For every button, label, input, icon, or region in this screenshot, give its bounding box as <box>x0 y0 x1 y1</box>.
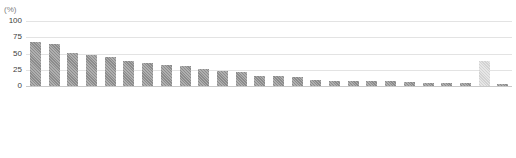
x-axis-tick-label: Norway <box>484 88 492 158</box>
bar-chart: (%) 1007550250 CyprusLuxembourgGermanySw… <box>0 0 516 158</box>
bar[interactable] <box>217 71 228 86</box>
bar[interactable] <box>254 76 265 86</box>
x-axis-tick-label: Denmark <box>110 88 118 158</box>
x-axis-label-slot: Spain <box>381 88 400 158</box>
x-axis-tick-label: Hungary <box>334 88 342 158</box>
bars-layer <box>26 21 512 86</box>
x-axis-tick-label: Croatia <box>502 88 510 158</box>
axis-baseline <box>26 86 512 87</box>
x-axis-tick-label: Italy <box>353 88 361 158</box>
x-axis-label-slot: Germany <box>63 88 82 158</box>
x-axis-tick-label: Latvia <box>315 88 323 158</box>
bar[interactable] <box>385 81 396 86</box>
x-axis-label-slot: Czech Republic <box>288 88 307 158</box>
x-axis-label-slot: Slovenia <box>119 88 138 158</box>
bar[interactable] <box>105 57 116 86</box>
x-axis-label-slot: Austria <box>232 88 251 158</box>
x-axis-label-slot: Malta <box>157 88 176 158</box>
x-axis-label-slot: Denmark <box>101 88 120 158</box>
x-axis-label-slot: Netherlands <box>194 88 213 158</box>
bar[interactable] <box>497 84 508 86</box>
x-axis-label-slot: Poland <box>362 88 381 158</box>
x-axis-tick-label: United Kingdom <box>185 88 193 158</box>
x-axis-tick-label: Romania <box>465 88 473 158</box>
x-axis-tick-label: Slovenia <box>128 88 136 158</box>
x-axis-tick-label: France <box>409 88 417 158</box>
x-axis-label-slot: Belgium <box>138 88 157 158</box>
bar[interactable] <box>329 81 340 86</box>
bar[interactable] <box>404 82 415 86</box>
x-axis-label-slot: Cyprus <box>26 88 45 158</box>
x-axis-tick-label: Cyprus <box>35 88 43 158</box>
y-axis-unit-label: (%) <box>4 5 16 14</box>
x-axis-tick-label: Germany <box>72 88 80 158</box>
bar[interactable] <box>180 66 191 86</box>
x-axis-tick-label: Greece <box>446 88 454 158</box>
bar[interactable] <box>142 63 153 86</box>
x-axis-tick-label: Spain <box>390 88 398 158</box>
x-axis-label-slot: United Kingdom <box>176 88 195 158</box>
x-axis-label-slot: France <box>400 88 419 158</box>
x-axis-label-slot: Italy <box>344 88 363 158</box>
bar[interactable] <box>366 81 377 86</box>
x-axis-label-slot: Sweden <box>82 88 101 158</box>
x-axis-label-slot: Romania <box>456 88 475 158</box>
bar[interactable] <box>479 61 490 86</box>
bar[interactable] <box>236 72 247 86</box>
x-axis-label-slot: Hungary <box>325 88 344 158</box>
x-axis-tick-label: Belgium <box>147 88 155 158</box>
bar[interactable] <box>441 83 452 86</box>
x-axis-tick-label: Estonia <box>259 88 267 158</box>
y-axis-tick-label: 25 <box>0 66 22 74</box>
x-axis-label-slot: Finland <box>269 88 288 158</box>
x-axis-tick-label: Portugal <box>428 88 436 158</box>
bar[interactable] <box>348 81 359 86</box>
y-axis-tick-label: 0 <box>0 82 22 90</box>
y-axis-tick-label: 50 <box>0 50 22 58</box>
bar[interactable] <box>460 83 471 86</box>
x-axis-label-slot: Estonia <box>250 88 269 158</box>
x-axis-label-slot: Croatia <box>493 88 512 158</box>
x-axis-tick-label: Czech Republic <box>297 88 305 158</box>
x-axis-labels-layer: CyprusLuxembourgGermanySwedenDenmarkSlov… <box>26 88 512 158</box>
x-axis-label-slot: Luxembourg <box>45 88 64 158</box>
x-axis-tick-label: Lithuania <box>222 88 230 158</box>
bar[interactable] <box>30 42 41 86</box>
x-axis-tick-label: Luxembourg <box>54 88 62 158</box>
bar[interactable] <box>161 65 172 86</box>
x-axis-label-slot: Latvia <box>306 88 325 158</box>
x-axis-tick-label: Netherlands <box>203 88 211 158</box>
bar[interactable] <box>198 69 209 86</box>
bar[interactable] <box>86 55 97 86</box>
x-axis-tick-label: Malta <box>166 88 174 158</box>
bar[interactable] <box>423 83 434 86</box>
x-axis-label-slot: Greece <box>437 88 456 158</box>
bar[interactable] <box>67 53 78 86</box>
bar[interactable] <box>49 44 60 86</box>
x-axis-tick-label: Poland <box>371 88 379 158</box>
x-axis-label-slot: Portugal <box>419 88 438 158</box>
bar[interactable] <box>273 76 284 86</box>
x-axis-tick-label: Sweden <box>91 88 99 158</box>
y-axis-tick-label: 100 <box>0 17 22 25</box>
x-axis-tick-label: Austria <box>241 88 249 158</box>
bar[interactable] <box>292 77 303 86</box>
x-axis-label-slot: Norway <box>475 88 494 158</box>
x-axis-label-slot: Lithuania <box>213 88 232 158</box>
y-axis-tick-label: 75 <box>0 33 22 41</box>
x-axis-tick-label: Finland <box>278 88 286 158</box>
bar[interactable] <box>310 80 321 86</box>
bar[interactable] <box>123 61 134 86</box>
